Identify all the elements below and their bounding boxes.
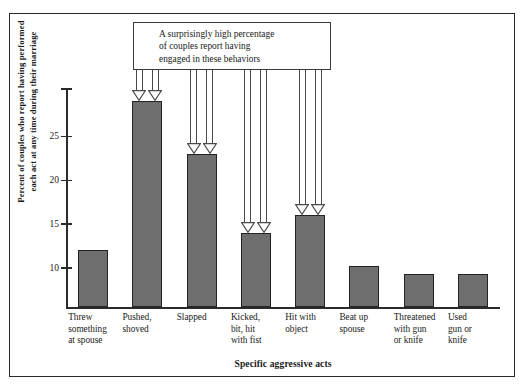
arrow-stem bbox=[152, 70, 159, 90]
figure-root: Percent of couples who report having per… bbox=[0, 0, 527, 390]
x-label-slapped: Slapped bbox=[177, 312, 207, 324]
arrow-head-icon bbox=[311, 204, 325, 215]
x-label-line: Hit with bbox=[285, 312, 316, 324]
y-tick-label-10: 10 bbox=[41, 263, 59, 273]
arrow-head-icon bbox=[257, 222, 271, 233]
x-label-line: Pushed, bbox=[122, 312, 151, 324]
x-label-line: at spouse bbox=[68, 335, 107, 347]
arrow-stem bbox=[244, 70, 251, 222]
bar-beat-up-spouse[interactable] bbox=[349, 266, 379, 307]
x-label-beat-up-spouse: Beat upspouse bbox=[339, 312, 368, 335]
arrow-head-icon bbox=[241, 222, 255, 233]
x-label-line: Kicked, bbox=[231, 312, 262, 324]
x-label-threw-something-at-spouse: Threwsomethingat spouse bbox=[68, 312, 107, 347]
x-label-line: Threatened bbox=[394, 312, 436, 324]
x-label-line: bit, hit bbox=[231, 324, 262, 336]
bar-pushed-shoved[interactable] bbox=[132, 101, 162, 307]
bar-kicked-bit-hit-with-fist[interactable] bbox=[241, 233, 271, 308]
x-label-line: spouse bbox=[339, 324, 368, 336]
x-axis-title: Specific aggressive acts bbox=[66, 358, 500, 369]
x-label-line: knife bbox=[448, 335, 472, 347]
y-tick-label-25: 25 bbox=[41, 131, 59, 141]
x-axis-line bbox=[66, 307, 500, 309]
arrow-head-icon bbox=[132, 90, 146, 101]
x-label-hit-with-object: Hit withobject bbox=[285, 312, 316, 335]
x-label-kicked-bit-hit-with-fist: Kicked,bit, hitwith fist bbox=[231, 312, 262, 347]
y-axis-title-line-1: Percent of couples who report having per… bbox=[16, 0, 28, 227]
arrow-stem bbox=[136, 70, 143, 90]
arrow-head-icon bbox=[295, 204, 309, 215]
y-tick-label-20: 20 bbox=[41, 175, 59, 185]
x-label-line: Slapped bbox=[177, 312, 207, 324]
y-tick-15 bbox=[61, 223, 72, 225]
x-label-line: something bbox=[68, 324, 107, 336]
x-label-line: Threw bbox=[68, 312, 107, 324]
arrow-stem bbox=[260, 70, 267, 222]
x-label-line: gun or bbox=[448, 324, 472, 336]
bar-used-gun-or-knife[interactable] bbox=[458, 274, 488, 307]
annotation-callout: A surprisingly high percentage of couple… bbox=[133, 22, 331, 70]
x-label-pushed-shoved: Pushed,shoved bbox=[122, 312, 151, 335]
arrow-stem bbox=[190, 70, 197, 143]
x-label-line: or knife bbox=[394, 335, 436, 347]
y-tick-10 bbox=[61, 267, 72, 269]
annotation-line-3: engaged in these behaviors bbox=[159, 53, 330, 65]
y-axis-line bbox=[66, 89, 68, 308]
bar-hit-with-object[interactable] bbox=[295, 215, 325, 307]
x-label-used-gun-or-knife: Usedgun orknife bbox=[448, 312, 472, 347]
bar-threw-something-at-spouse[interactable] bbox=[78, 250, 108, 308]
arrow-head-icon bbox=[187, 143, 201, 154]
arrow-stem bbox=[315, 70, 322, 204]
bar-threatened-with-gun-or-knife[interactable] bbox=[404, 274, 434, 307]
bar-slapped[interactable] bbox=[187, 154, 217, 308]
x-label-line: Used bbox=[448, 312, 472, 324]
y-axis-top-cap-tick bbox=[61, 88, 72, 90]
x-label-line: object bbox=[285, 324, 316, 336]
y-tick-label-15: 15 bbox=[41, 219, 59, 229]
y-axis-title: Percent of couples who report having per… bbox=[16, 0, 39, 227]
y-axis-title-line-2: each act at any time during their marria… bbox=[27, 0, 39, 227]
y-tick-25 bbox=[61, 136, 72, 138]
arrow-stem bbox=[206, 70, 213, 143]
arrow-stem bbox=[299, 70, 306, 204]
x-label-line: Beat up bbox=[339, 312, 368, 324]
x-label-line: with fist bbox=[231, 335, 262, 347]
arrow-head-icon bbox=[203, 143, 217, 154]
y-tick-20 bbox=[61, 180, 72, 182]
annotation-line-1: A surprisingly high percentage bbox=[159, 28, 330, 40]
arrow-head-icon bbox=[148, 90, 162, 101]
x-label-threatened-with-gun-or-knife: Threatenedwith gunor knife bbox=[394, 312, 436, 347]
annotation-line-2: of couples report having bbox=[159, 40, 330, 52]
x-label-line: shoved bbox=[122, 324, 151, 336]
x-label-line: with gun bbox=[394, 324, 436, 336]
